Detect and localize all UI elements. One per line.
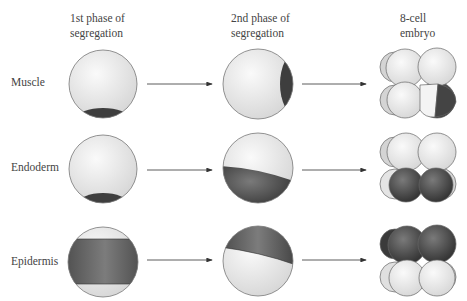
epidermis-2nd-phase-egg [220, 220, 296, 296]
epidermis-1st-phase-egg [60, 227, 150, 297]
epidermis-8-cell-embryo [380, 225, 456, 296]
endoderm-1st-phase-egg [69, 135, 137, 215]
muscle-1st-phase-egg [69, 50, 137, 128]
endoderm-2nd-phase-egg [220, 133, 296, 210]
endoderm-8-cell-embryo [380, 133, 456, 202]
muscle-8-cell-embryo [380, 48, 456, 118]
muscle-2nd-phase-egg [223, 49, 314, 119]
segregation-diagram [0, 0, 467, 301]
